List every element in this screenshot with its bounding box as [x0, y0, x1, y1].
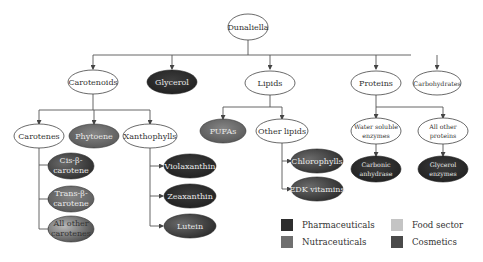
legend-swatch-food-sector: [391, 219, 403, 231]
node-violaxanthin: Violaxanthin: [164, 154, 216, 178]
svg-text:carotene: carotene: [53, 199, 89, 208]
svg-text:Phytoene: Phytoene: [75, 132, 113, 141]
svg-text:carotene: carotene: [53, 166, 89, 175]
legend-item-cosmetics: Cosmetics: [391, 236, 457, 248]
svg-text:Glycerol: Glycerol: [155, 78, 189, 87]
node-all-other-carotenes: All other carotenes: [48, 216, 94, 242]
svg-text:Proteins: Proteins: [359, 79, 393, 88]
svg-text:Other lipids: Other lipids: [258, 127, 306, 136]
svg-text:Carbohydrates: Carbohydrates: [413, 80, 460, 88]
svg-text:Carotenoids: Carotenoids: [68, 78, 117, 87]
node-glycerol-enzymes: Glycerol enzymes: [418, 156, 468, 182]
node-carotenoids: Carotenoids: [68, 70, 118, 94]
svg-text:Trans-β-: Trans-β-: [54, 189, 88, 198]
legend-item-food-sector: Food sector: [391, 219, 463, 231]
legend-item-pharmaceuticals: Pharmaceuticals: [281, 219, 375, 231]
node-xanthophylls: Xanthophylls: [123, 124, 177, 148]
svg-text:proteins: proteins: [430, 132, 456, 140]
svg-text:Carotenes: Carotenes: [18, 132, 59, 141]
svg-text:Violaxanthin: Violaxanthin: [164, 162, 216, 171]
node-glycerol: Glycerol: [147, 70, 197, 94]
node-trans-beta-carotene: Trans-β- carotene: [48, 186, 94, 212]
node-lipids: Lipids: [245, 71, 295, 95]
legend-item-nutraceuticals: Nutraceuticals: [281, 236, 366, 248]
legend: Pharmaceuticals Nutraceuticals Food sect…: [281, 219, 481, 253]
legend-swatch-cosmetics: [391, 236, 403, 248]
node-carbonic-anhydrase: Carbonic anhydrase: [351, 156, 401, 182]
node-edk-vitamins: EDK vitamins: [289, 177, 344, 201]
svg-text:Lutein: Lutein: [177, 222, 203, 231]
svg-text:enzymes: enzymes: [362, 132, 390, 140]
svg-text:Carbonic: Carbonic: [361, 161, 390, 168]
svg-text:All other: All other: [428, 123, 458, 130]
node-lutein: Lutein: [164, 214, 216, 238]
svg-text:Cis-β-: Cis-β-: [60, 156, 83, 165]
svg-text:All other: All other: [52, 219, 88, 228]
svg-text:Xanthophylls: Xanthophylls: [124, 132, 177, 141]
node-proteins: Proteins: [351, 71, 401, 95]
node-carbohydrates: Carbohydrates: [413, 71, 461, 95]
node-water-soluble-enzymes: Water soluble enzymes: [351, 118, 401, 144]
svg-text:PUFAs: PUFAs: [210, 127, 237, 136]
svg-text:Dunaliella: Dunaliella: [227, 23, 268, 32]
node-chlorophylls: Chlorophylls: [291, 149, 343, 173]
svg-text:enzymes: enzymes: [429, 170, 457, 178]
svg-text:EDK vitamins: EDK vitamins: [289, 185, 344, 194]
svg-text:carotenes: carotenes: [51, 229, 91, 238]
node-all-other-proteins: All other proteins: [418, 118, 468, 144]
node-zeaxanthin: Zeaxanthin: [164, 184, 216, 208]
node-other-lipids: Other lipids: [256, 119, 308, 143]
node-phytoene: Phytoene: [69, 124, 119, 148]
svg-text:Chlorophylls: Chlorophylls: [291, 157, 342, 166]
node-carotenes: Carotenes: [14, 124, 64, 148]
node-cis-beta-carotene: Cis-β- carotene: [48, 153, 94, 179]
svg-text:anhydrase: anhydrase: [359, 170, 392, 178]
node-dunaliella: Dunaliella: [227, 14, 268, 40]
node-pufas: PUFAs: [200, 119, 246, 143]
svg-text:Water soluble: Water soluble: [354, 123, 398, 130]
svg-text:Glycerol: Glycerol: [430, 161, 457, 169]
legend-swatch-pharmaceuticals: [281, 219, 293, 231]
svg-text:Lipids: Lipids: [258, 79, 283, 88]
legend-swatch-nutraceuticals: [281, 236, 293, 248]
svg-text:Zeaxanthin: Zeaxanthin: [167, 192, 213, 201]
